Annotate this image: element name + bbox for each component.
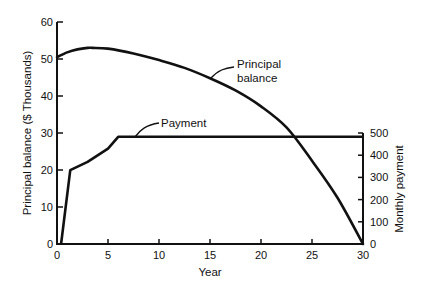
x-tick-label: 10	[153, 249, 165, 261]
x-tick-label: 0	[54, 249, 60, 261]
y2-tick-label: 500	[370, 127, 388, 139]
y2-tick-label: 0	[370, 238, 376, 250]
y-tick-label: 20	[41, 164, 53, 176]
x-tick-label: 25	[306, 249, 318, 261]
x-tick-label: 20	[255, 249, 267, 261]
annotation-payment-text: Payment	[161, 117, 207, 129]
x-tick-label: 15	[204, 249, 216, 261]
y-tick-label: 0	[47, 238, 53, 250]
annotation-principal-line2: balance	[237, 72, 277, 84]
y-tick-label: 60	[41, 16, 53, 28]
y2-tick-label: 400	[370, 149, 388, 161]
y2-tick-label: 100	[370, 216, 388, 228]
annotation-principal-balance: Principal balance	[210, 58, 281, 84]
y-tick-label: 10	[41, 201, 53, 213]
y2-tick-label: 200	[370, 194, 388, 206]
left-y-axis: 0102030405060	[41, 16, 63, 250]
annotation-payment: Payment	[135, 117, 207, 137]
y-tick-label: 40	[41, 90, 53, 102]
x-tick-label: 5	[105, 249, 111, 261]
x-tick-label: 30	[357, 249, 369, 261]
y-tick-label: 30	[41, 127, 53, 139]
principal-balance-line	[57, 48, 363, 244]
payment-line	[61, 137, 363, 244]
y2-tick-label: 300	[370, 171, 388, 183]
annotation-principal-line1: Principal	[237, 58, 281, 70]
x-axis: 051015202530	[54, 239, 369, 261]
right-y-axis-title: Monthly payment	[393, 144, 405, 232]
chart: 0102030405060 051015202530 0100200300400…	[0, 0, 427, 292]
left-y-axis-title: Principal balance ($ Thousands)	[21, 50, 33, 215]
x-axis-title: Year	[198, 266, 221, 278]
right-y-axis: 0100200300400500	[358, 127, 388, 250]
y-tick-label: 50	[41, 53, 53, 65]
